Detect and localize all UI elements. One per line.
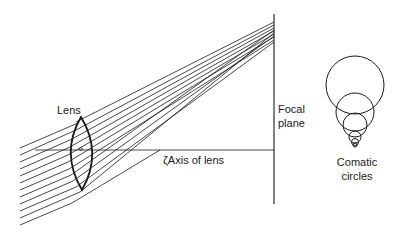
- comatic-circles-label: Comatic circles: [330, 155, 384, 183]
- comatic-circles: [326, 56, 384, 147]
- coma-diagram: Lens ζAxis of lens Focal plane Comatic c…: [0, 0, 397, 233]
- focal-plane-label: Focal plane: [278, 102, 305, 130]
- comatic-label-line2: circles: [330, 169, 384, 183]
- axis-label: ζAxis of lens: [163, 154, 224, 166]
- comatic-label-line1: Comatic: [330, 155, 384, 169]
- focal-plane-label-line2: plane: [278, 116, 305, 130]
- incoming-rays: [20, 123, 80, 225]
- focal-plane-label-line1: Focal: [278, 102, 305, 116]
- lens-label: Lens: [57, 104, 81, 116]
- diagram-graphics: [0, 0, 397, 233]
- refracted-rays: [68, 22, 274, 203]
